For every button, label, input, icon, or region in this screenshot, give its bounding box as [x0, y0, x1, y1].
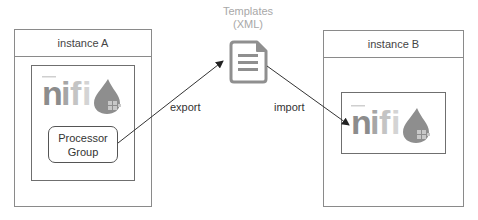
- arrows-layer: [0, 0, 478, 220]
- import-arrow: [267, 66, 349, 125]
- export-label: export: [170, 101, 201, 113]
- import-label: import: [274, 101, 305, 113]
